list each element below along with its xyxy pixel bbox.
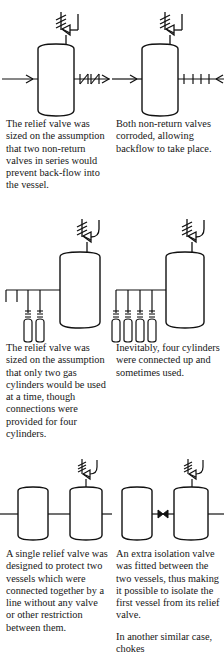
relief-valve-icon bbox=[160, 12, 182, 44]
vessel-outline-1 bbox=[122, 487, 152, 540]
diagram-svg bbox=[0, 218, 112, 342]
gas-cylinder-2 bbox=[124, 311, 132, 342]
gas-cylinder-2 bbox=[36, 311, 44, 342]
panel-row2-right: Inevitably, four cylinders were connecte… bbox=[112, 218, 224, 379]
gas-cylinder-3 bbox=[136, 311, 144, 342]
diagram-svg bbox=[112, 218, 224, 342]
vessel-outline-2 bbox=[174, 487, 208, 540]
caption-spacer bbox=[112, 622, 224, 631]
outlet-line-with-corroded-valves bbox=[178, 74, 224, 84]
vessel-outline bbox=[60, 252, 100, 328]
diagram-vessel-two-non-return-valves bbox=[0, 0, 112, 118]
manifold-header bbox=[6, 290, 60, 313]
panel-row1-left: The relief valve was sized on the assump… bbox=[0, 0, 112, 192]
relief-valve-icon bbox=[182, 219, 204, 252]
diagram-vessel-two-gas-cylinders bbox=[0, 218, 112, 342]
vessel-outline bbox=[166, 252, 204, 328]
caption-row2-left: The relief valve was sized on the assump… bbox=[0, 342, 112, 440]
relief-valve-icon bbox=[184, 459, 203, 487]
vessel-outline-1 bbox=[18, 487, 48, 540]
inlet-line bbox=[112, 75, 142, 83]
panel-row2-left: The relief valve was sized on the assump… bbox=[0, 218, 112, 440]
diagram-twin-vessels-with-isolation bbox=[112, 455, 224, 548]
diagram-svg bbox=[112, 0, 224, 118]
vessel-outline bbox=[142, 44, 178, 116]
isolation-valve-icon bbox=[158, 510, 168, 518]
panel-row3-left: A single relief valve was designed to pr… bbox=[0, 455, 112, 634]
diagram-vessel-four-gas-cylinders bbox=[112, 218, 224, 342]
caption-row3-left: A single relief valve was designed to pr… bbox=[0, 548, 112, 634]
diagram-svg bbox=[112, 455, 224, 548]
caption-row2-right: Inevitably, four cylinders were connecte… bbox=[112, 342, 224, 379]
relief-valve-icon bbox=[77, 219, 99, 252]
manifold-header bbox=[116, 290, 166, 313]
inlet-line bbox=[2, 75, 38, 83]
diagram-svg bbox=[0, 455, 112, 548]
vessel-outline bbox=[38, 44, 74, 116]
panel-row3-right: An extra isolation valve was fitted betw… bbox=[112, 455, 224, 655]
caption-row3-right-continued: In another similar case, chokes bbox=[112, 631, 224, 656]
gas-cylinder-4 bbox=[148, 311, 156, 342]
vessel-outline-2 bbox=[70, 487, 102, 540]
outlet-line-with-non-return-valves bbox=[74, 74, 110, 84]
diagram-twin-vessels-no-isolation bbox=[0, 455, 112, 548]
relief-valve-icon bbox=[56, 12, 78, 44]
panel-row1-right: Both non-return valves corroded, allowin… bbox=[112, 0, 224, 155]
figure-page: The relief valve was sized on the assump… bbox=[0, 0, 224, 656]
caption-row1-right: Both non-return valves corroded, allowin… bbox=[112, 118, 224, 155]
relief-valve-icon bbox=[78, 459, 97, 487]
caption-row3-right: An extra isolation valve was fitted betw… bbox=[112, 548, 224, 622]
caption-row1-left: The relief valve was sized on the assump… bbox=[0, 118, 112, 192]
diagram-vessel-corroded-valves bbox=[112, 0, 224, 118]
gas-cylinder-1 bbox=[112, 311, 120, 342]
diagram-svg bbox=[0, 0, 112, 118]
gas-cylinder-1 bbox=[24, 311, 32, 342]
